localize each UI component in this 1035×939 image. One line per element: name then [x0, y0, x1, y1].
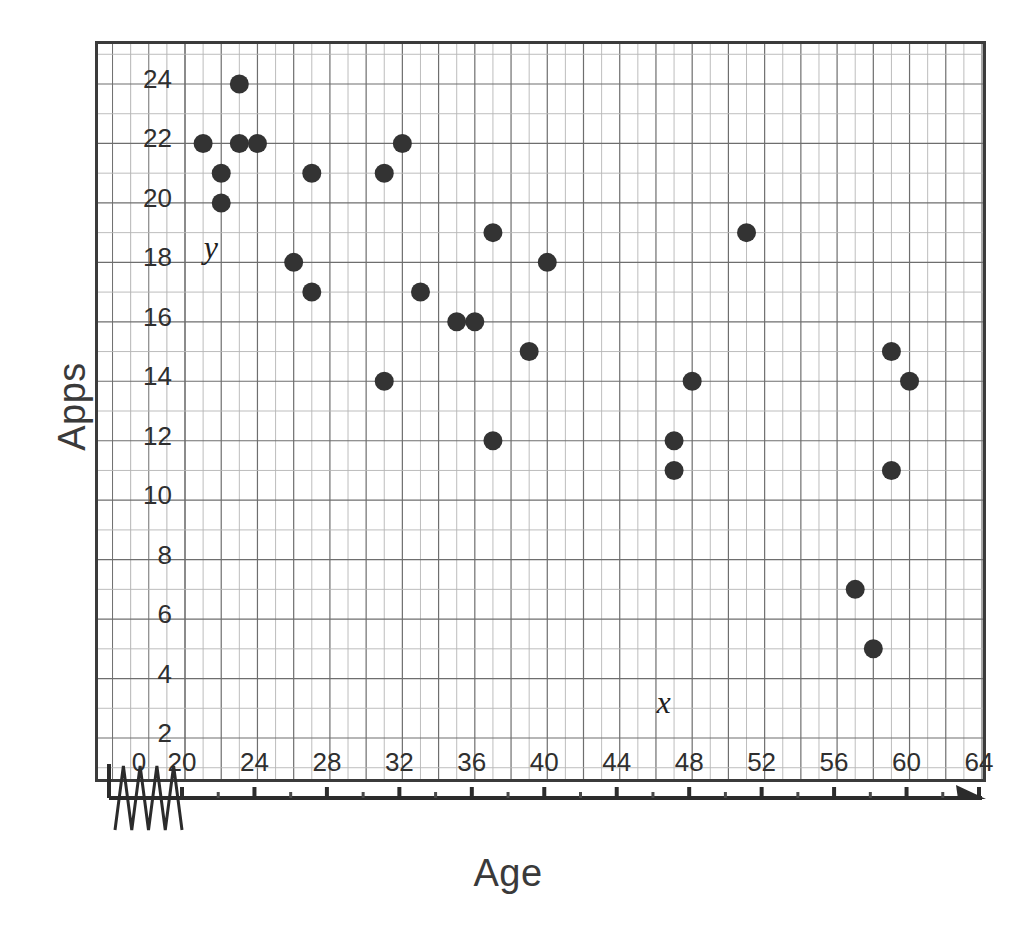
data-point [212, 193, 231, 212]
plot-frame [95, 41, 986, 782]
y-tick-label: 14 [116, 361, 172, 392]
x-tick-label: 48 [659, 747, 719, 778]
x-tick-label: 36 [442, 747, 502, 778]
y-tick-label: 2 [116, 718, 172, 749]
data-point [900, 372, 919, 391]
y-tick-label: 8 [116, 540, 172, 571]
data-point [465, 312, 484, 331]
data-point [302, 164, 321, 183]
data-point-layer [98, 44, 983, 779]
data-point [520, 342, 539, 361]
data-point [284, 253, 303, 272]
data-point [846, 580, 865, 599]
data-point [665, 461, 684, 480]
x-tick-label: 20 [152, 747, 212, 778]
x-tick-label: 64 [949, 747, 1009, 778]
data-point [737, 223, 756, 242]
data-point [230, 75, 249, 94]
data-point [194, 134, 213, 153]
x-tick-label: 32 [369, 747, 429, 778]
data-point [230, 134, 249, 153]
data-point [393, 134, 412, 153]
data-point [302, 283, 321, 302]
x-tick-label: 24 [224, 747, 284, 778]
x-tick-label: 28 [297, 747, 357, 778]
axis-letter-y: y [204, 229, 218, 266]
data-point [212, 164, 231, 183]
scatter-plot-figure: Apps Age 24681012141618202224 0202428323… [0, 0, 1035, 939]
x-axis-arrow-icon [956, 785, 986, 799]
y-tick-label: 20 [116, 183, 172, 214]
y-axis-title: Apps [51, 317, 94, 497]
y-tick-label: 18 [116, 242, 172, 273]
data-point [538, 253, 557, 272]
x-tick-label: 56 [804, 747, 864, 778]
x-tick-label: 40 [514, 747, 574, 778]
y-tick-label: 24 [116, 64, 172, 95]
x-tick-label: 60 [877, 747, 937, 778]
data-point [411, 283, 430, 302]
data-point [375, 372, 394, 391]
data-point [483, 223, 502, 242]
y-tick-label: 6 [116, 599, 172, 630]
data-point [864, 639, 883, 658]
y-tick-label: 10 [116, 480, 172, 511]
y-tick-label: 12 [116, 421, 172, 452]
data-point [882, 342, 901, 361]
data-point [375, 164, 394, 183]
data-point [683, 372, 702, 391]
data-point [447, 312, 466, 331]
data-point [248, 134, 267, 153]
data-point [665, 431, 684, 450]
x-axis-title: Age [378, 852, 638, 895]
axis-letter-x: x [657, 684, 671, 721]
y-tick-label: 16 [116, 302, 172, 333]
y-tick-label: 4 [116, 659, 172, 690]
x-tick-label: 44 [587, 747, 647, 778]
y-tick-label: 22 [116, 123, 172, 154]
data-point [483, 431, 502, 450]
x-tick-label: 52 [732, 747, 792, 778]
data-point [882, 461, 901, 480]
